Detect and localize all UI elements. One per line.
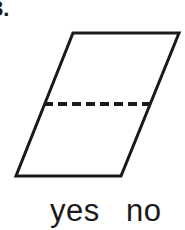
parallelogram-outline — [16, 33, 179, 176]
answer-options-row: yes no — [0, 192, 185, 230]
answer-option-no[interactable]: no — [126, 192, 161, 230]
answer-option-yes[interactable]: yes — [50, 192, 100, 230]
worksheet-question-panel: 3. yes no — [0, 0, 185, 230]
parallelogram-figure — [0, 0, 185, 185]
